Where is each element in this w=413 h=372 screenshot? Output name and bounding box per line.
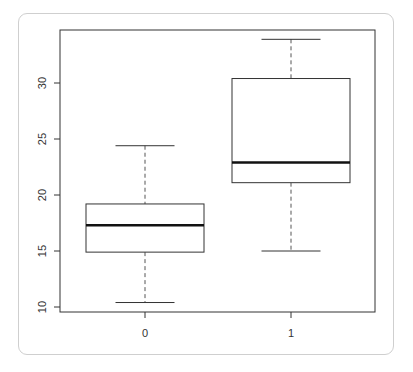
x-tick-label: 1: [288, 327, 294, 339]
boxes: [86, 39, 350, 302]
y-axis: 1015202530: [36, 77, 60, 313]
y-tick-label: 30: [36, 77, 48, 89]
boxplot-chart: 1015202530 01: [0, 0, 413, 372]
iqr-box: [232, 79, 350, 183]
y-tick-label: 15: [36, 245, 48, 257]
box-1: [232, 39, 350, 251]
y-tick-label: 20: [36, 189, 48, 201]
x-axis: 01: [142, 312, 294, 339]
x-tick-label: 0: [142, 327, 148, 339]
iqr-box: [86, 204, 204, 252]
y-tick-label: 25: [36, 133, 48, 145]
box-0: [86, 146, 204, 303]
y-tick-label: 10: [36, 301, 48, 313]
